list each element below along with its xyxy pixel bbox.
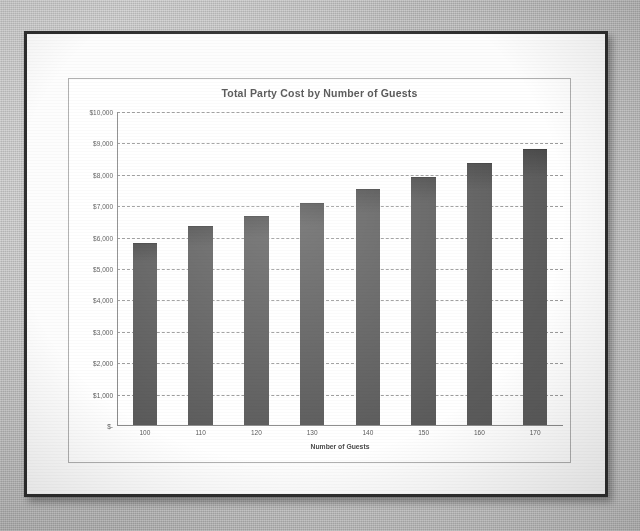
gridline [117, 300, 563, 301]
y-axis-tick-label: $9,000 [93, 140, 113, 147]
bar [188, 226, 213, 426]
y-axis-tick-label: $- [107, 423, 113, 430]
y-axis-tick-label: $5,000 [93, 266, 113, 273]
x-axis-tick-labels: 100110120130140150160170 [117, 429, 563, 441]
x-axis-tick-label: 110 [195, 429, 205, 436]
bar [523, 149, 548, 426]
x-axis-tick-label: 120 [251, 429, 262, 436]
printed-page: Total Party Cost by Number of Guests $10… [24, 31, 608, 497]
y-axis-tick-label: $7,000 [93, 203, 113, 210]
bar [411, 177, 436, 426]
x-axis-tick-label: 160 [474, 429, 485, 436]
x-axis-tick-label: 150 [418, 429, 429, 436]
bar [244, 216, 269, 426]
bar [356, 189, 381, 426]
x-axis-tick-label: 140 [362, 429, 373, 436]
gridline [117, 332, 563, 333]
x-axis-line [117, 425, 563, 426]
gridline [117, 206, 563, 207]
chart-frame: Total Party Cost by Number of Guests $10… [68, 78, 571, 463]
plot-area [117, 112, 563, 426]
y-axis-tick-label: $2,000 [93, 360, 113, 367]
bar [133, 243, 158, 426]
gridline [117, 363, 563, 364]
x-axis-tick-label: 130 [307, 429, 318, 436]
chart-title: Total Party Cost by Number of Guests [69, 87, 570, 99]
x-axis-tick-label: 100 [139, 429, 150, 436]
y-axis-tick-label: $8,000 [93, 171, 113, 178]
bar [467, 163, 492, 426]
gridline [117, 238, 563, 239]
y-axis-tick-label: $4,000 [93, 297, 113, 304]
gridline [117, 175, 563, 176]
y-axis-line [117, 112, 118, 426]
gridline [117, 112, 563, 113]
x-axis-tick-label: 170 [530, 429, 541, 436]
y-axis-tick-label: $10,000 [90, 109, 114, 116]
gridline [117, 269, 563, 270]
y-axis-tick-label: $1,000 [93, 391, 113, 398]
gridline [117, 143, 563, 144]
y-axis-tick-label: $6,000 [93, 234, 113, 241]
y-axis-tick-label: $3,000 [93, 328, 113, 335]
x-axis-title: Number of Guests [117, 443, 563, 450]
gridline [117, 395, 563, 396]
y-axis-tick-labels: $10,000$9,000$8,000$7,000$6,000$5,000$4,… [69, 112, 113, 426]
bar [300, 203, 325, 426]
